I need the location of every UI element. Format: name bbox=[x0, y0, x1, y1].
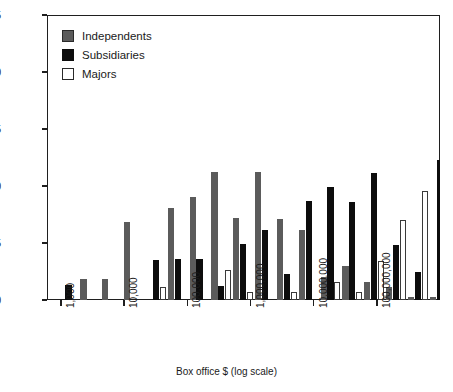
bar-majors bbox=[225, 270, 231, 300]
x-tick-label: 1,000 bbox=[65, 283, 76, 308]
bar-majors bbox=[160, 287, 166, 300]
legend-label: Majors bbox=[82, 68, 117, 80]
legend-label: Subsidiaries bbox=[82, 49, 145, 61]
legend-item-majors: Majors bbox=[62, 66, 152, 82]
x-tick-label: 10,000,000 bbox=[318, 258, 329, 308]
bar-independents bbox=[342, 266, 348, 300]
bar-majors bbox=[334, 282, 340, 300]
legend-label: Independents bbox=[82, 30, 152, 42]
bar-independents bbox=[211, 172, 217, 300]
x-tick-label: 1,000,000 bbox=[255, 264, 266, 309]
bar-independents bbox=[168, 208, 174, 300]
bar-independents bbox=[299, 230, 305, 300]
bar-subsidiaries bbox=[240, 244, 246, 300]
x-tick-mark bbox=[313, 300, 315, 306]
bar-subsidiaries bbox=[284, 274, 290, 300]
bar-subsidiaries bbox=[175, 259, 181, 300]
y-tick-label: 25 bbox=[0, 10, 1, 21]
x-tick-mark bbox=[250, 300, 252, 306]
bar-independents bbox=[364, 282, 370, 300]
bar-independents bbox=[408, 297, 414, 300]
bar-majors bbox=[247, 292, 253, 300]
bar-majors bbox=[422, 191, 428, 300]
bar-subsidiaries bbox=[153, 260, 159, 300]
y-tick-label: 0 bbox=[0, 295, 1, 306]
bar-subsidiaries bbox=[218, 286, 224, 300]
bar-independents bbox=[233, 218, 239, 300]
x-tick-mark bbox=[60, 300, 62, 306]
bar-subsidiaries bbox=[437, 160, 440, 300]
bar-independents bbox=[277, 219, 283, 300]
bar-chart-figure: Percent frequency 0510152025 1,00010,000… bbox=[0, 0, 453, 392]
bar-subsidiaries bbox=[349, 202, 355, 300]
x-tick-mark bbox=[123, 300, 125, 306]
y-tick-label: 20 bbox=[0, 67, 1, 78]
y-tick-label: 10 bbox=[0, 181, 1, 192]
x-tick-mark bbox=[187, 300, 189, 306]
bar-independents bbox=[80, 279, 86, 300]
x-axis-title: Box office $ (log scale) bbox=[0, 366, 453, 377]
bar-subsidiaries bbox=[415, 272, 421, 301]
legend-item-subsidiaries: Subsidiaries bbox=[62, 47, 152, 63]
bar-majors bbox=[400, 220, 406, 300]
x-tick-label: 10,000 bbox=[128, 277, 139, 308]
legend-item-independents: Independents bbox=[62, 28, 152, 44]
legend-swatch-majors-icon bbox=[62, 68, 74, 80]
bar-majors bbox=[291, 292, 297, 300]
legend-swatch-subsidiaries-icon bbox=[62, 49, 74, 61]
x-tick-label: 100,000 bbox=[191, 272, 202, 308]
y-tick-label: 5 bbox=[0, 238, 1, 249]
x-tick-mark bbox=[376, 300, 378, 306]
x-tick-label: 100,000,000 bbox=[381, 252, 392, 308]
legend-swatch-independents-icon bbox=[62, 30, 74, 42]
legend: IndependentsSubsidiariesMajors bbox=[62, 28, 152, 85]
y-tick-label: 15 bbox=[0, 124, 1, 135]
bar-independents bbox=[430, 297, 436, 300]
bar-subsidiaries bbox=[306, 201, 312, 300]
bar-subsidiaries bbox=[371, 173, 377, 300]
bar-subsidiaries bbox=[393, 245, 399, 300]
bar-independents bbox=[102, 279, 108, 300]
bar-majors bbox=[356, 292, 362, 300]
